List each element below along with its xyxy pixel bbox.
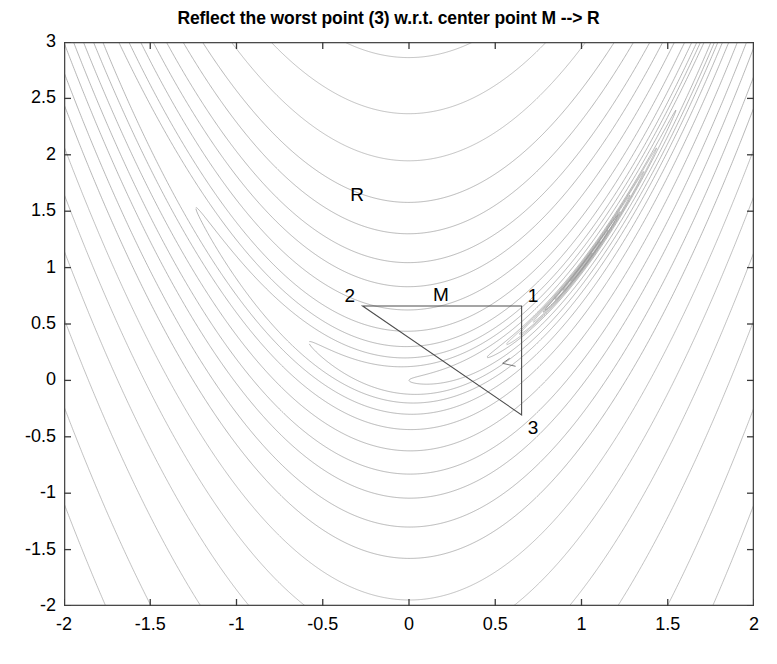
vertex-label-1: 1 bbox=[528, 285, 539, 307]
contour-line bbox=[409, 42, 754, 384]
x-axis-tick-label: 1.5 bbox=[638, 614, 698, 635]
axis-ticks-group bbox=[64, 42, 754, 606]
page-title: Reflect the worst point (3) w.r.t. cente… bbox=[0, 8, 777, 29]
x-axis-tick-label: 2 bbox=[724, 614, 777, 635]
contour-line bbox=[571, 253, 593, 282]
plot-area bbox=[64, 42, 754, 606]
y-axis-tick-label: 2 bbox=[4, 144, 56, 165]
x-axis-tick-label: 0 bbox=[379, 614, 439, 635]
contour-line bbox=[64, 42, 754, 527]
y-axis-tick-label: -1 bbox=[4, 482, 56, 503]
contour-lines-group bbox=[64, 42, 754, 606]
reflection-label-r: R bbox=[350, 184, 364, 206]
x-axis-tick-label: -2 bbox=[34, 614, 94, 635]
y-axis-tick-label: 2.5 bbox=[4, 87, 56, 108]
contour-line bbox=[64, 42, 754, 606]
x-axis-tick-label: -0.5 bbox=[293, 614, 353, 635]
x-axis-tick-label: 1 bbox=[552, 614, 612, 635]
y-axis-tick-label: 1 bbox=[4, 257, 56, 278]
contour-line bbox=[64, 42, 754, 606]
y-axis-tick-label: -0.5 bbox=[4, 426, 56, 447]
contour-line bbox=[64, 42, 754, 600]
contour-line bbox=[64, 42, 754, 606]
y-axis-tick-label: -1.5 bbox=[4, 539, 56, 560]
contour-line bbox=[64, 42, 754, 474]
contour-line bbox=[64, 42, 754, 606]
chart-root: Reflect the worst point (3) w.r.t. cente… bbox=[0, 0, 777, 664]
plot-frame bbox=[65, 43, 754, 606]
midpoint-label-m: M bbox=[433, 284, 449, 306]
contour-line bbox=[64, 42, 754, 430]
x-axis-tick-label: 0.5 bbox=[465, 614, 525, 635]
contour-line bbox=[64, 42, 754, 606]
y-axis-tick-label: 1.5 bbox=[4, 200, 56, 221]
y-axis-tick-label: 0 bbox=[4, 369, 56, 390]
contour-line bbox=[196, 42, 754, 403]
vertex-label-3: 3 bbox=[528, 417, 539, 439]
contour-plot-svg bbox=[64, 42, 754, 606]
x-axis-tick-label: -1.5 bbox=[120, 614, 180, 635]
x-axis-tick-label: -1 bbox=[207, 614, 267, 635]
contour-line bbox=[64, 42, 754, 414]
vertex-label-2: 2 bbox=[345, 285, 356, 307]
y-axis-tick-label: 3 bbox=[4, 31, 56, 52]
contour-line bbox=[64, 42, 754, 451]
y-axis-tick-label: -2 bbox=[4, 595, 56, 616]
y-axis-tick-label: 0.5 bbox=[4, 313, 56, 334]
